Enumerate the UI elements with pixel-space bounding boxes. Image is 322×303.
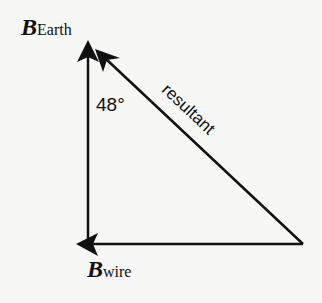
b-earth-label: BEarth [21, 14, 72, 41]
b-symbol: B [21, 14, 37, 40]
resultant-vector [106, 59, 303, 244]
b-wire-label: Bwire [87, 256, 131, 283]
b-symbol: B [87, 256, 103, 282]
earth-subscript: Earth [37, 21, 72, 38]
wire-subscript: wire [103, 263, 131, 280]
angle-label: 48° [96, 94, 125, 116]
vector-triangle [0, 0, 322, 303]
